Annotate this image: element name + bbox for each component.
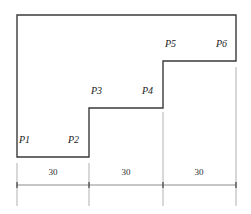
staircase-polygon-figure: P1 P2 P3 P4 P5 P6 30 30 30 bbox=[0, 0, 251, 214]
dimension-label-segment-1: 30 bbox=[45, 168, 61, 177]
vertex-label-p6: P6 bbox=[216, 39, 227, 49]
dimension-label-segment-2: 30 bbox=[118, 168, 134, 177]
dimension-label-segment-3: 30 bbox=[191, 168, 207, 177]
figure-canvas bbox=[0, 0, 251, 214]
vertex-label-p1: P1 bbox=[19, 135, 30, 145]
dimension-line-group bbox=[17, 182, 236, 188]
vertex-label-p2: P2 bbox=[68, 135, 79, 145]
vertex-label-p3: P3 bbox=[91, 86, 102, 96]
vertex-label-p5: P5 bbox=[165, 39, 176, 49]
vertex-label-p4: P4 bbox=[142, 86, 153, 96]
staircase-polygon-outline bbox=[17, 15, 236, 157]
